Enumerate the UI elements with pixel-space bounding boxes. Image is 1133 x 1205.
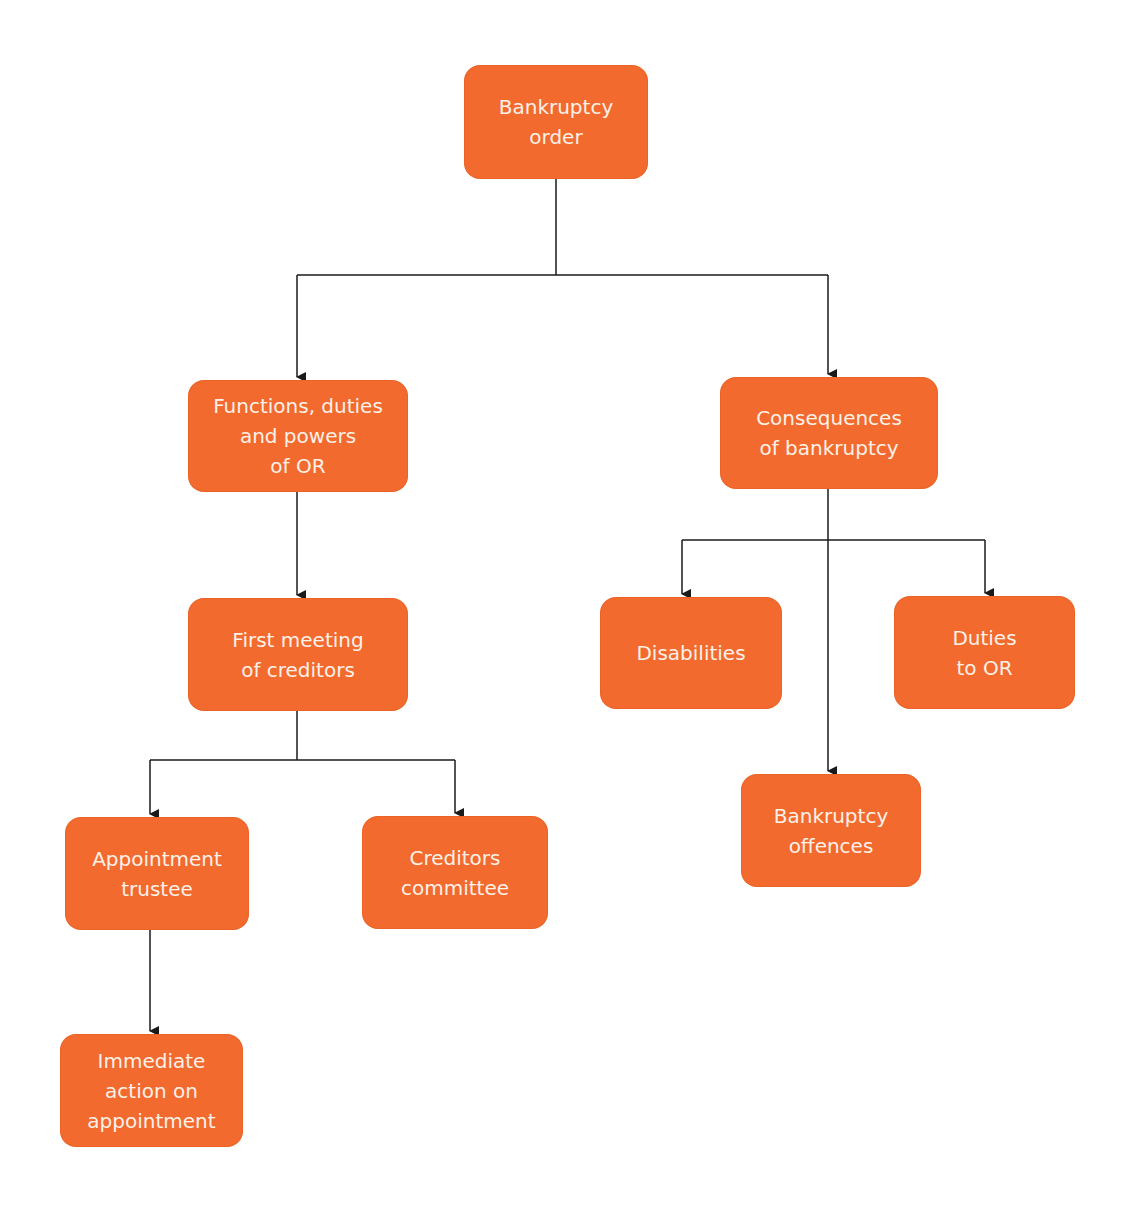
node-bankruptcy-order: Bankruptcy order	[464, 65, 648, 179]
node-label: Creditors committee	[401, 843, 509, 903]
node-bankruptcy-offences: Bankruptcy offences	[741, 774, 921, 887]
node-label: Bankruptcy order	[499, 92, 614, 152]
node-functions-duties-powers-of-or: Functions, duties and powers of OR	[188, 380, 408, 492]
node-label: Immediate action on appointment	[87, 1046, 215, 1136]
node-label: Consequences of bankruptcy	[756, 403, 902, 463]
node-consequences-of-bankruptcy: Consequences of bankruptcy	[720, 377, 938, 489]
node-immediate-action-on-appointment: Immediate action on appointment	[60, 1034, 243, 1147]
node-label: Appointment trustee	[92, 844, 222, 904]
node-label: Functions, duties and powers of OR	[213, 391, 383, 481]
node-disabilities: Disabilities	[600, 597, 782, 709]
node-duties-to-or: Duties to OR	[894, 596, 1075, 709]
node-first-meeting-of-creditors: First meeting of creditors	[188, 598, 408, 711]
bankruptcy-flowchart: Bankruptcy order Functions, duties and p…	[0, 0, 1133, 1205]
node-label: Bankruptcy offences	[774, 801, 889, 861]
node-creditors-committee: Creditors committee	[362, 816, 548, 929]
node-label: Duties to OR	[952, 623, 1016, 683]
node-label: First meeting of creditors	[232, 625, 363, 685]
node-appointment-trustee: Appointment trustee	[65, 817, 249, 930]
node-label: Disabilities	[636, 638, 745, 668]
